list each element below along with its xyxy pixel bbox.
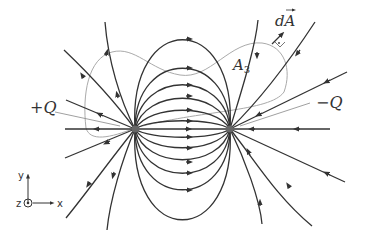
field-lines-upper [135,39,231,129]
area-element-vector [272,34,285,47]
negative-charge [227,126,234,133]
dipole-field-diagram: +Q −Q A3 dA y z x [0,0,368,245]
field-lines-positive-open [64,22,135,230]
y-axis-label: y [18,170,24,181]
negative-charge-label: −Q [316,93,343,112]
closed-surface-a3 [85,43,287,137]
surface-label: A3 [231,56,250,75]
field-lines-lower [135,129,231,220]
coordinate-system [24,176,52,207]
positive-charge [132,126,139,133]
field-lines-negative-open [230,20,347,226]
x-axis-label: x [57,198,63,209]
positive-charge-label: +Q [30,98,57,117]
area-element-label: dA [275,12,296,30]
z-axis-label: z [16,198,21,209]
